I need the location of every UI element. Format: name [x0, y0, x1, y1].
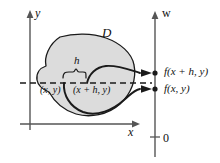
y-axis-label: y: [35, 7, 40, 19]
x-axis-label: x: [128, 126, 133, 138]
domain-region-label: D: [102, 26, 111, 39]
y-axis: [27, 10, 34, 130]
h-brace-label: h: [74, 55, 80, 66]
x-axis: [20, 121, 140, 128]
shifted-value-label: f(x + h, y): [164, 66, 208, 77]
math-figure: y w x 0 D h (x, y) (x + h, y) f(x + h, y…: [0, 0, 220, 163]
base-value-label: f(x, y): [164, 83, 190, 94]
base-point-label: (x, y): [40, 85, 61, 95]
w-axis: [150, 11, 160, 157]
origin-label: 0: [163, 132, 169, 144]
w-axis-label: w: [162, 7, 171, 19]
shifted-point-label: (x + h, y): [73, 85, 110, 95]
